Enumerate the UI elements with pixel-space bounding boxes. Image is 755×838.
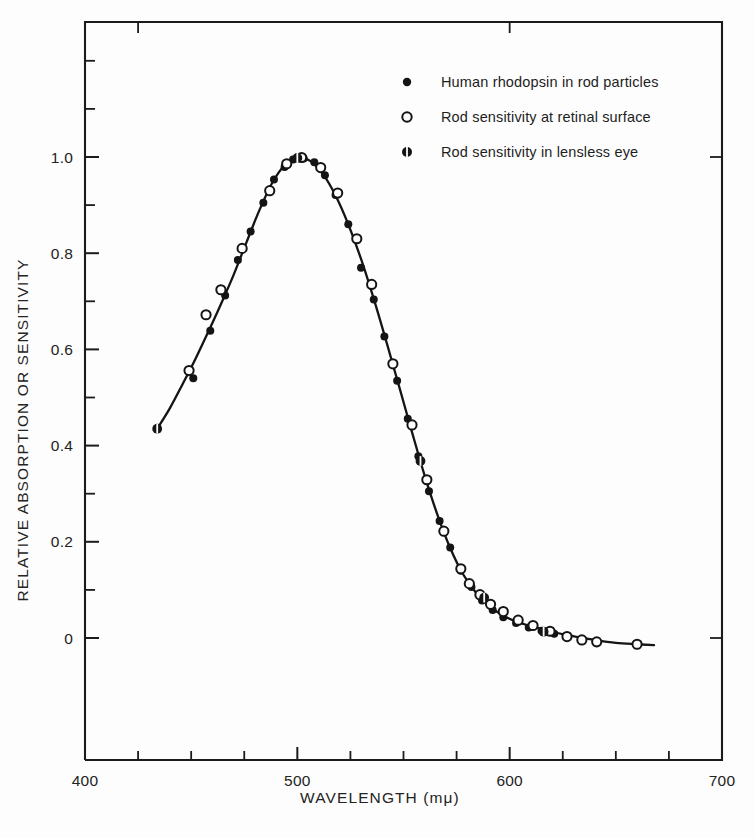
data-point [206, 327, 214, 335]
y-tick-label: 0.2 [51, 533, 73, 550]
data-point [152, 424, 162, 434]
legend: Human rhodopsin in rod particlesRod sens… [402, 74, 659, 160]
data-point [292, 153, 302, 163]
data-point [514, 616, 523, 625]
data-point [282, 159, 291, 168]
data-point [201, 310, 210, 319]
legend-label: Human rhodopsin in rod particles [441, 74, 659, 90]
legend-item-1[interactable]: Human rhodopsin in rod particles [403, 74, 659, 90]
data-point [238, 244, 247, 253]
data-point [316, 163, 325, 172]
data-point [184, 366, 193, 375]
x-tick-label: 500 [284, 772, 311, 789]
data-point [456, 564, 465, 573]
x-tick-label: 600 [496, 772, 523, 789]
data-point [367, 280, 376, 289]
data-point [234, 256, 242, 264]
data-point [259, 199, 267, 207]
banded-circle-icon [402, 147, 412, 157]
chart-background [0, 0, 755, 838]
y-tick-label: 0.6 [51, 341, 73, 358]
y-tick-label: 1.0 [51, 149, 73, 166]
filled-circle-icon [403, 78, 411, 86]
data-point [388, 359, 397, 368]
y-tick-label: 0 [64, 630, 73, 647]
data-point [465, 579, 474, 588]
data-point [370, 295, 378, 303]
y-tick-label: 0.8 [51, 245, 73, 262]
data-point [632, 640, 641, 649]
data-point [265, 186, 274, 195]
y-tick-label: 0.4 [51, 437, 73, 454]
data-point [352, 234, 361, 243]
data-point [380, 332, 388, 340]
legend-label: Rod sensitivity at retinal surface [441, 109, 651, 125]
data-point [425, 487, 433, 495]
data-point [562, 632, 571, 641]
data-point [439, 527, 448, 536]
data-point [407, 420, 416, 429]
y-axis-title: RELATIVE ABSORPTION OR SENSITIVITY [14, 259, 31, 602]
data-point [247, 228, 255, 236]
data-point [344, 220, 352, 228]
data-point [393, 377, 401, 385]
data-point [416, 456, 426, 466]
figure-container: 400500600700 00.20.40.60.81.0 WAVELENGTH… [0, 0, 755, 838]
data-point [592, 637, 601, 646]
data-point [216, 285, 225, 294]
data-point [436, 517, 444, 525]
data-point [539, 627, 549, 637]
x-tick-label: 400 [72, 772, 99, 789]
open-circle-icon [402, 112, 411, 121]
data-point [422, 475, 431, 484]
rhodopsin-spectrum-chart: 400500600700 00.20.40.60.81.0 WAVELENGTH… [0, 0, 755, 838]
x-axis-title: WAVELENGTH (mμ) [300, 789, 460, 806]
data-point [357, 264, 365, 272]
data-point [270, 176, 278, 184]
data-point [528, 621, 537, 630]
data-point [499, 607, 508, 616]
data-point [577, 635, 586, 644]
legend-label: Rod sensitivity in lensless eye [441, 144, 638, 160]
data-point [333, 188, 342, 197]
x-tick-label: 700 [709, 772, 736, 789]
data-point [446, 544, 454, 552]
data-point [479, 593, 489, 603]
